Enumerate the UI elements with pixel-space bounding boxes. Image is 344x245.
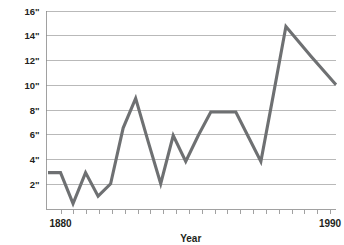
line-chart-plot: 2"4"6"8"10"12"14"16"18801990Year xyxy=(0,0,344,245)
data-series-line xyxy=(48,27,336,204)
y-gridlines: 2"4"6"8"10"12"14"16" xyxy=(24,6,336,190)
y-axis-tick-label: 12" xyxy=(24,55,39,66)
x-axis-ticks xyxy=(62,210,331,214)
y-axis-tick-label: 14" xyxy=(24,30,39,41)
y-axis-tick-label: 8" xyxy=(30,105,40,116)
y-axis-tick-label: 2" xyxy=(30,179,40,190)
y-axis-tick-label: 10" xyxy=(24,80,39,91)
x-axis-title: Year xyxy=(180,233,201,244)
y-axis-tick-label: 4" xyxy=(30,154,40,165)
x-axis-tick-label: 1990 xyxy=(319,218,342,229)
y-axis-tick-label: 6" xyxy=(30,129,40,140)
x-axis-tick-labels: 18801990 xyxy=(49,218,341,229)
y-axis-tick-label: 16" xyxy=(24,6,39,17)
chart-figure: 2"4"6"8"10"12"14"16"18801990Year xyxy=(0,0,344,245)
x-axis-tick-label: 1880 xyxy=(49,218,72,229)
